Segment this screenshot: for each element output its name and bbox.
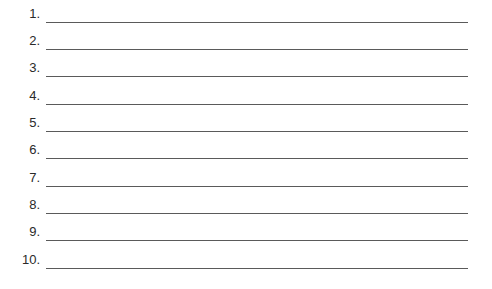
list-item: 7. (0, 167, 492, 187)
answer-line[interactable] (46, 76, 468, 77)
answer-line[interactable] (46, 240, 468, 241)
answer-line[interactable] (46, 213, 468, 214)
answer-line[interactable] (46, 22, 468, 23)
item-number: 4. (29, 88, 40, 103)
list-item: 5. (0, 112, 492, 132)
item-number: 6. (29, 142, 40, 157)
item-number: 10. (22, 252, 40, 267)
list-item: 8. (0, 194, 492, 214)
item-number: 8. (29, 197, 40, 212)
list-item: 10. (0, 249, 492, 269)
list-item: 6. (0, 139, 492, 159)
item-number: 7. (29, 170, 40, 185)
list-item: 1. (0, 3, 492, 23)
answer-line[interactable] (46, 131, 468, 132)
list-item: 9. (0, 221, 492, 241)
answer-line[interactable] (46, 104, 468, 105)
answer-line[interactable] (46, 49, 468, 50)
list-item: 2. (0, 30, 492, 50)
answer-line[interactable] (46, 186, 468, 187)
item-number: 9. (29, 224, 40, 239)
item-number: 5. (29, 115, 40, 130)
list-item: 3. (0, 57, 492, 77)
answer-line[interactable] (46, 158, 468, 159)
list-item: 4. (0, 85, 492, 105)
answer-line[interactable] (46, 268, 468, 269)
item-number: 3. (29, 60, 40, 75)
item-number: 1. (29, 6, 40, 21)
item-number: 2. (29, 33, 40, 48)
